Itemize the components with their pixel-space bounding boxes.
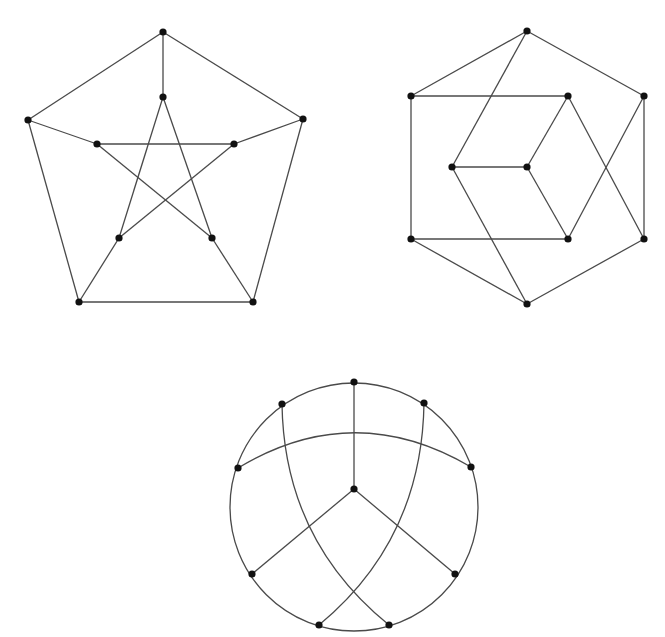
vertex-right bbox=[467, 463, 474, 470]
vertex-bottom-right bbox=[385, 621, 392, 628]
vertex-outer-right bbox=[299, 115, 306, 122]
vertex-left bbox=[234, 464, 241, 471]
edge-outer-bottom-right-inner-lower-right bbox=[212, 238, 253, 302]
vertex-right-lower bbox=[640, 235, 647, 242]
vertex-left-lower bbox=[407, 235, 414, 242]
vertex-inner-upper-right bbox=[564, 92, 571, 99]
vertex-inner-right bbox=[230, 140, 237, 147]
vertex-inner-left bbox=[448, 163, 455, 170]
edge-inner-center-inner-lower bbox=[527, 167, 568, 239]
vertex-inner-lower-left bbox=[115, 234, 122, 241]
vertex-outer-top bbox=[159, 28, 166, 35]
edge-outer-left-outer-top bbox=[28, 32, 163, 120]
vertex-inner-top bbox=[159, 93, 166, 100]
edge-inner-upper-right-inner-center bbox=[527, 96, 568, 167]
edges bbox=[28, 32, 303, 302]
edge-outer-bottom-left-inner-lower-left bbox=[79, 238, 119, 302]
vertex-top bbox=[523, 27, 530, 34]
vertex-bottom-left bbox=[315, 621, 322, 628]
edge-right-lower-bottom bbox=[527, 239, 644, 304]
vertex-upper-left bbox=[278, 400, 285, 407]
pentagram-petersen-drawing bbox=[24, 28, 306, 305]
edge-outer-right-inner-right bbox=[234, 119, 303, 144]
vertices bbox=[407, 27, 647, 307]
vertex-top bbox=[350, 378, 357, 385]
vertex-inner-left bbox=[93, 140, 100, 147]
edge-outer-left-inner-left bbox=[28, 120, 97, 144]
vertex-upper-right bbox=[420, 399, 427, 406]
arc-upper-right-bottom-left bbox=[319, 403, 424, 625]
edge-outer-top-outer-right bbox=[163, 32, 303, 119]
vertex-inner-lower-right bbox=[208, 234, 215, 241]
vertex-center bbox=[350, 485, 357, 492]
vertex-outer-bottom-left bbox=[75, 298, 82, 305]
edge-inner-right-inner-lower-left bbox=[119, 144, 234, 238]
vertex-right-upper bbox=[640, 92, 647, 99]
arc-upper-left-bottom-right bbox=[282, 404, 389, 625]
circle-petersen-drawing bbox=[230, 378, 478, 631]
edge-outer-right-outer-bottom-right bbox=[253, 119, 303, 302]
edge-inner-left-inner-lower-right bbox=[97, 144, 212, 238]
vertex-outer-bottom-right bbox=[249, 298, 256, 305]
hexagon-petersen-drawing bbox=[407, 27, 647, 307]
vertex-lower-left bbox=[248, 570, 255, 577]
vertex-lower-right bbox=[451, 570, 458, 577]
vertex-bottom bbox=[523, 300, 530, 307]
edge-outer-bottom-left-outer-left bbox=[28, 120, 79, 302]
edge-center-lower-left bbox=[252, 489, 354, 574]
edge-center-lower-right bbox=[354, 489, 455, 574]
vertex-inner-center bbox=[523, 163, 530, 170]
edge-top-right-upper bbox=[527, 31, 644, 96]
vertex-left-upper bbox=[407, 92, 414, 99]
petersen-graph-figure bbox=[0, 0, 665, 637]
vertices bbox=[24, 28, 306, 305]
vertex-outer-left bbox=[24, 116, 31, 123]
vertex-inner-lower bbox=[564, 235, 571, 242]
edges bbox=[230, 382, 478, 631]
